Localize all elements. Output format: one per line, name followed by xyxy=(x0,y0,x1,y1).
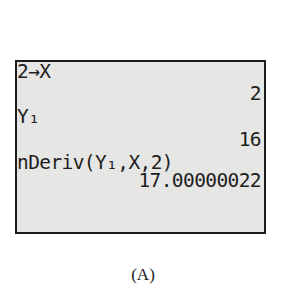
figure-caption: (A) xyxy=(0,265,286,285)
output-nderiv-value: 17.00000022 xyxy=(17,171,261,191)
input-store-x: 2→X xyxy=(17,62,261,82)
output-x-value: 2 xyxy=(17,84,261,104)
input-y1: Y₁ xyxy=(17,107,261,127)
output-y1-value: 16 xyxy=(17,130,261,150)
calculator-screen: 2→X 2 Y₁ 16 nDeriv(Y₁,X,2) 17.00000022 xyxy=(15,60,266,234)
